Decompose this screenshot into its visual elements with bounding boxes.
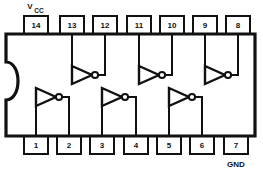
inverter-2-bubble-icon bbox=[122, 94, 128, 100]
gnd-label: GND bbox=[227, 160, 245, 169]
pin-label: 10 bbox=[168, 21, 177, 30]
pin-top-14[interactable]: 14 bbox=[24, 16, 48, 34]
pin-label: 1 bbox=[34, 141, 39, 150]
pin-label: 8 bbox=[236, 21, 241, 30]
pin-bottom-4[interactable]: 4 bbox=[124, 136, 148, 154]
ic-pinout-figure: 14 13 12 11 10 9 8 1 bbox=[0, 0, 263, 170]
inverter-6-bubble-icon bbox=[225, 72, 231, 78]
pin-bottom-7[interactable]: 7 bbox=[224, 136, 248, 154]
pin-top-11[interactable]: 11 bbox=[127, 16, 151, 34]
pin-label: 13 bbox=[68, 21, 77, 30]
inverter-5-bubble-icon bbox=[159, 72, 165, 78]
pin-bottom-2[interactable]: 2 bbox=[57, 136, 81, 154]
pin-top-8[interactable]: 8 bbox=[226, 16, 250, 34]
ic-pinout-svg: 14 13 12 11 10 9 8 1 bbox=[0, 0, 263, 170]
ic-package-body bbox=[6, 34, 255, 136]
pin-top-10[interactable]: 10 bbox=[160, 16, 184, 34]
pin-bottom-3[interactable]: 3 bbox=[90, 136, 114, 154]
pin-label: 5 bbox=[167, 141, 172, 150]
pin-label: 3 bbox=[100, 141, 105, 150]
pin-top-9[interactable]: 9 bbox=[193, 16, 217, 34]
pin-label: 9 bbox=[203, 21, 208, 30]
inverter-1-bubble-icon bbox=[56, 94, 62, 100]
pin-bottom-6[interactable]: 6 bbox=[190, 136, 214, 154]
vcc-label: V CC bbox=[27, 2, 44, 14]
pin-label: 6 bbox=[200, 141, 205, 150]
pin-row-bottom: 1 2 3 4 5 6 7 bbox=[24, 136, 248, 154]
pin-label: 2 bbox=[67, 141, 72, 150]
pin-label: 4 bbox=[134, 141, 139, 150]
pin-bottom-1[interactable]: 1 bbox=[24, 136, 48, 154]
pin-label: 11 bbox=[135, 21, 144, 30]
pin-row-top: 14 13 12 11 10 9 8 bbox=[24, 16, 250, 34]
vcc-label-base: V bbox=[27, 2, 33, 11]
pin-top-13[interactable]: 13 bbox=[60, 16, 84, 34]
inverter-4-bubble-icon bbox=[92, 72, 98, 78]
inverter-3-bubble-icon bbox=[189, 94, 195, 100]
pin-label: 12 bbox=[101, 21, 110, 30]
vcc-label-subscript: CC bbox=[34, 7, 44, 14]
pin-top-12[interactable]: 12 bbox=[93, 16, 117, 34]
pin-bottom-5[interactable]: 5 bbox=[157, 136, 181, 154]
pin-label: 7 bbox=[234, 141, 239, 150]
pin-label: 14 bbox=[32, 21, 41, 30]
